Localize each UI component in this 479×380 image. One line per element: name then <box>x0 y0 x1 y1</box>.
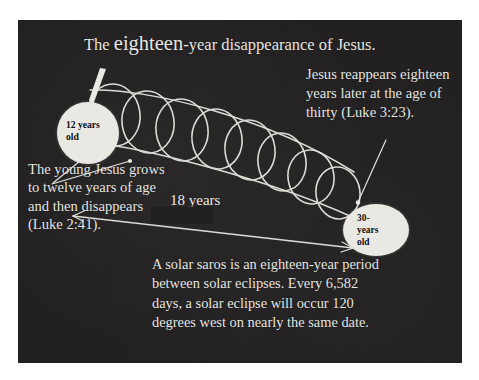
figure-root: The eighteen-year disappearance of Jesus… <box>0 0 479 380</box>
leader-right-to-node <box>358 140 386 202</box>
leader-dot <box>356 200 361 205</box>
pointer-layer <box>18 20 462 363</box>
title-pointer <box>89 68 106 105</box>
leader-left-to-arrow <box>52 161 130 184</box>
leader-dot <box>128 159 132 163</box>
leader-dot <box>78 158 82 162</box>
diagram-panel: The eighteen-year disappearance of Jesus… <box>18 20 462 363</box>
